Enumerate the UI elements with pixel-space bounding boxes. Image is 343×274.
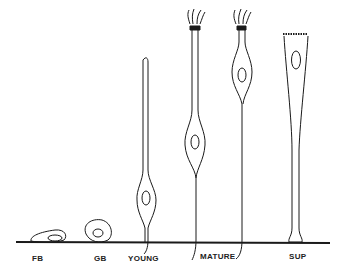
label-mature: MATURE [200, 252, 235, 261]
label-young: YOUNG [128, 254, 159, 263]
sup-cell-icon [283, 34, 308, 242]
cell-diagram: FB GB YOUNG MATURE SUP [0, 0, 343, 274]
young-neuron-icon [137, 58, 156, 254]
label-fb: FB [32, 254, 43, 263]
gb-cell-icon [85, 220, 111, 242]
label-sup: SUP [289, 252, 306, 261]
label-gb: GB [94, 254, 107, 263]
diagram-drawing [0, 0, 343, 274]
mature-neuron-2-icon [232, 9, 252, 259]
basement-membrane-line [16, 242, 330, 243]
fb-cell-icon [31, 230, 66, 242]
mature-neuron-1-icon [185, 9, 205, 260]
